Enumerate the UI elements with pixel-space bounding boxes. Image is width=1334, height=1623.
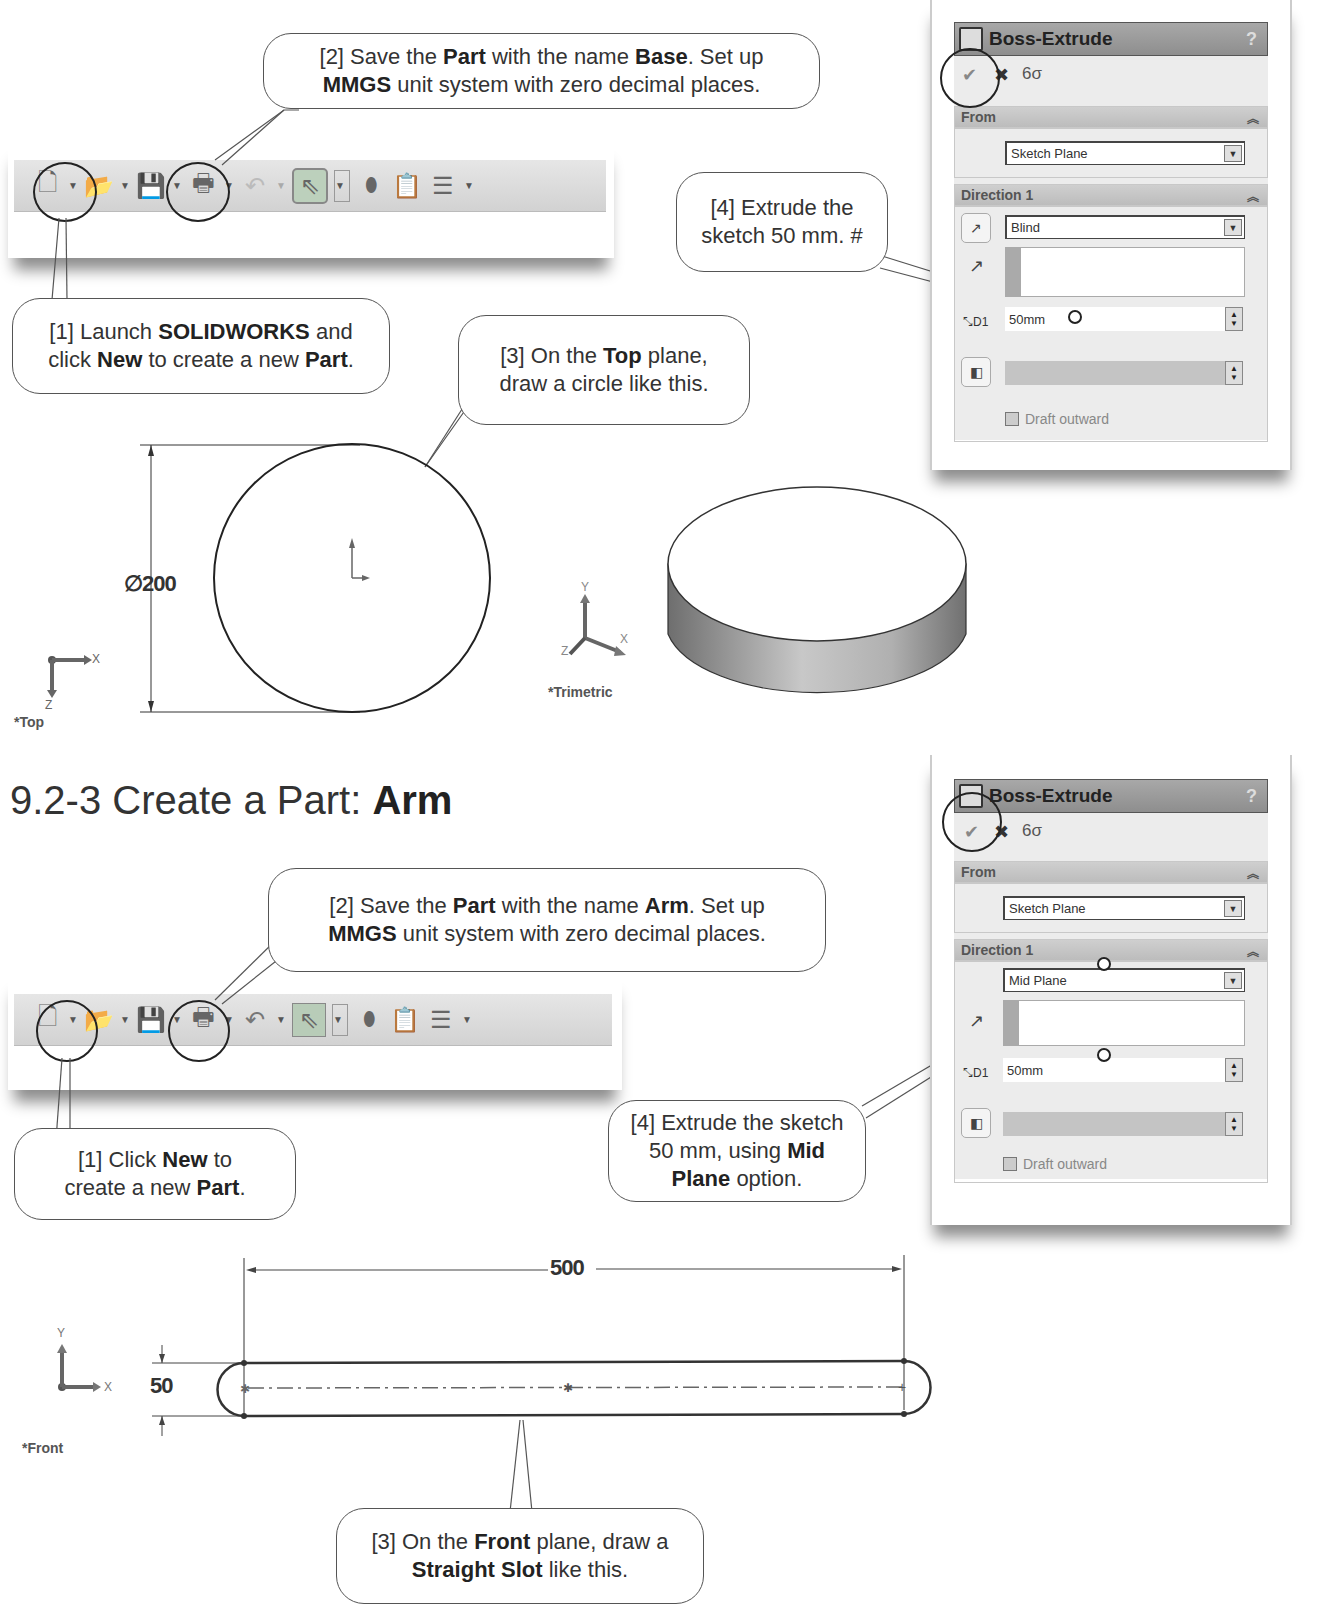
chevron-down-icon[interactable]: ▼ <box>1224 900 1242 917</box>
from-label: From <box>961 864 996 880</box>
triad-x-label: X <box>104 1380 112 1394</box>
chevron-down-icon[interactable]: ▼ <box>1224 972 1242 989</box>
draft-toggle-button[interactable]: ◧ <box>961 1108 991 1138</box>
pm-body: Boss-Extrude? ✔ ✖ 6σ From︽ Sketch Plane▼… <box>954 779 1268 1179</box>
direction1-label: Direction 1 <box>961 942 1033 958</box>
callout-step2-save-arm: [2] Save the Part with the name Arm. Set… <box>268 868 826 972</box>
length-dimension[interactable]: 500 <box>550 1255 584 1281</box>
direction1-section-body: Mid Plane▼ ↗ ⤡D1 50mm ▲▼ ◧ ▲▼ Draft outw… <box>954 961 1268 1183</box>
callout-step1-new: [1] Click New to create a new Part. <box>14 1128 296 1220</box>
triad-y-label: Y <box>57 1326 65 1340</box>
direction-vector-icon: ↗ <box>969 1010 984 1032</box>
from-section-body: Sketch Plane▼ <box>954 883 1268 933</box>
from-section-header[interactable]: From︽ <box>954 861 1268 883</box>
svg-text:+: + <box>898 1379 906 1395</box>
callout-step4-extrude-arm: [4] Extrude the sketch 50 mm, using Mid … <box>608 1100 866 1202</box>
depth-dimension-icon: ⤡D1 <box>963 1066 988 1080</box>
leader-end-marker <box>1097 1048 1111 1062</box>
direction1-section-header[interactable]: Direction 1︽ <box>954 939 1268 961</box>
from-select[interactable]: Sketch Plane▼ <box>1003 896 1245 920</box>
draft-angle-spinner[interactable]: ▲▼ <box>1225 1112 1243 1136</box>
collapse-chevron-icon[interactable]: ︽ <box>1247 864 1259 881</box>
pm-title: Boss-Extrude <box>989 785 1113 807</box>
collapse-chevron-icon[interactable]: ︽ <box>1247 942 1259 959</box>
highlight-ok-button <box>942 792 1002 852</box>
width-dimension[interactable]: 50 <box>150 1373 172 1399</box>
draft-angle-input[interactable] <box>1003 1112 1225 1136</box>
depth-input[interactable]: 50mm <box>1003 1058 1225 1082</box>
preview-button[interactable]: 6σ <box>1022 821 1042 841</box>
view-label-front: *Front <box>22 1440 63 1456</box>
svg-text:✱: ✱ <box>240 1382 250 1396</box>
depth-spinner[interactable]: ▲▼ <box>1225 1058 1243 1082</box>
pm-title-bar: Boss-Extrude? <box>954 779 1268 813</box>
sketch-slot-drawing: ✱ ✱ + <box>0 1250 960 1450</box>
leader-end-marker <box>1097 957 1111 971</box>
direction-selection-box[interactable] <box>1003 1000 1245 1046</box>
help-icon[interactable]: ? <box>1246 786 1257 807</box>
checkbox-icon[interactable] <box>1003 1157 1017 1171</box>
end-condition-select[interactable]: Mid Plane▼ <box>1003 968 1245 992</box>
draft-outward-checkbox[interactable]: Draft outward <box>1003 1156 1107 1172</box>
svg-text:✱: ✱ <box>563 1381 573 1395</box>
callout-step3-front-plane: [3] On the Front plane, draw a Straight … <box>336 1508 704 1604</box>
